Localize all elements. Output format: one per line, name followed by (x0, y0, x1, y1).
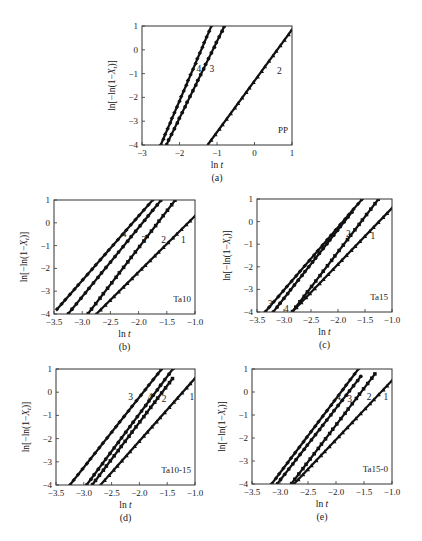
x-tick-label: −1.0 (384, 315, 401, 325)
x-tick-label: −1.5 (356, 487, 373, 497)
chart-panel-e: 4321−3.5−3.0−2.5−2.0−1.5−1.010−1−2−3−4Ta… (217, 364, 401, 523)
data-point (370, 376, 374, 380)
data-point (352, 384, 356, 388)
panel-caption: (c) (319, 339, 330, 351)
data-point (146, 214, 150, 218)
data-point (168, 381, 172, 385)
figure-canvas: 432−3−2−10110−1−2−3−4PPln tln[−ln(1−Xt)]… (0, 0, 422, 541)
data-point (154, 224, 158, 228)
y-tick-label: −3 (42, 457, 52, 467)
x-tick-label: −2.0 (130, 317, 147, 327)
y-tick-label: −4 (238, 479, 248, 489)
chart-panel-d: 3421−3.5−3.0−2.5−2.0−1.5−1.010−1−2−3−4Ta… (21, 364, 204, 524)
curve-label: 2 (367, 392, 372, 402)
data-point (102, 468, 106, 472)
y-tick-label: −3 (40, 286, 50, 296)
data-point (150, 229, 154, 233)
data-point (321, 423, 325, 427)
data-point (320, 442, 324, 446)
y-tick-label: 0 (244, 387, 249, 397)
data-point (90, 307, 94, 311)
curve-label: 3 (268, 299, 273, 309)
data-point (358, 392, 362, 396)
x-tick-label: −2 (175, 148, 185, 158)
data-point (170, 203, 174, 207)
data-point (159, 383, 163, 387)
x-axis-label: ln t (119, 500, 132, 510)
data-point (121, 245, 125, 249)
data-point (297, 472, 301, 476)
data-point (118, 271, 122, 275)
y-tick-label: −3 (243, 284, 253, 294)
data-point (307, 265, 311, 269)
series-group (159, 23, 294, 147)
data-point (335, 422, 339, 426)
data-point (342, 220, 346, 224)
y-axis-label: ln[−ln(1−Xt)] (107, 60, 118, 111)
y-tick-label: −4 (42, 480, 52, 490)
data-point (329, 413, 333, 417)
curve-label: 4 (336, 392, 341, 402)
data-point (331, 427, 335, 431)
y-tick-label: −3 (238, 456, 248, 466)
y-tick-label: 1 (134, 21, 139, 31)
curve-label: 1 (370, 231, 375, 241)
data-point (126, 239, 130, 243)
data-point (305, 443, 309, 447)
data-point (127, 434, 131, 438)
curve-label: 1 (384, 392, 389, 402)
curve-label: 4 (148, 392, 153, 402)
data-point (113, 255, 117, 259)
y-axis-label: ln[−ln(1−Xt)] (222, 230, 233, 281)
data-point (92, 281, 96, 285)
data-point (311, 260, 315, 264)
sample-label: PP (278, 125, 288, 135)
data-point (321, 247, 325, 251)
data-point (84, 291, 88, 295)
curve-label: 1 (189, 392, 194, 402)
data-point (330, 259, 334, 263)
data-point (143, 218, 147, 222)
data-point (134, 229, 138, 233)
data-point (328, 432, 332, 436)
data-point (314, 256, 318, 260)
data-point (109, 260, 113, 264)
data-point (207, 57, 211, 61)
data-point (194, 83, 198, 87)
data-point (126, 260, 130, 264)
data-point (204, 62, 208, 66)
data-point (317, 447, 321, 451)
x-tick-label: −3 (137, 148, 147, 158)
data-point (318, 274, 322, 278)
data-point (128, 425, 132, 429)
data-point (122, 266, 126, 270)
y-tick-label: −1 (128, 69, 138, 79)
y-tick-label: 0 (46, 218, 51, 228)
data-point (324, 437, 328, 441)
data-point (366, 382, 370, 386)
data-point (113, 454, 117, 458)
data-point (163, 378, 167, 382)
y-tick-label: 0 (48, 387, 53, 397)
data-point (108, 452, 112, 456)
x-axis-label: ln t (316, 499, 329, 509)
data-point (79, 296, 83, 300)
data-point (94, 302, 98, 306)
data-point (156, 396, 160, 400)
data-point (314, 433, 318, 437)
sample-label: Ta15 (370, 292, 388, 302)
x-tick-label: −1.5 (159, 317, 176, 327)
x-tick-label: −2.0 (131, 488, 148, 498)
data-point (183, 105, 187, 109)
data-point (131, 420, 135, 424)
data-point (75, 302, 79, 306)
x-tick-label: −2.5 (300, 487, 317, 497)
data-point (120, 436, 124, 440)
data-point (343, 412, 347, 416)
data-point (167, 138, 171, 142)
x-tick-label: 0 (252, 148, 257, 158)
data-point (170, 132, 174, 136)
data-point (340, 398, 344, 402)
data-point (275, 305, 279, 309)
data-point (357, 223, 361, 227)
